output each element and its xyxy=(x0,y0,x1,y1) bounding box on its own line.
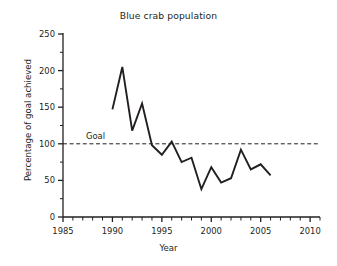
y-tick-label: 250 xyxy=(39,29,55,39)
y-tick-label: 150 xyxy=(39,102,55,112)
x-tick-label: 1985 xyxy=(52,226,73,236)
plot-area: 050100150200250 198519901995200020052010… xyxy=(0,0,337,266)
y-tick-label-group: 050100150200250 xyxy=(39,29,55,222)
x-tick-label: 1990 xyxy=(102,226,123,236)
y-tick-label: 0 xyxy=(50,212,55,222)
x-tick-label-group: 198519901995200020052010 xyxy=(52,226,320,236)
data-series-line xyxy=(112,67,270,189)
x-tick-label: 1995 xyxy=(151,226,172,236)
y-tick-label: 200 xyxy=(39,66,55,76)
chart-figure: Blue crab population Percentage of goal … xyxy=(0,0,337,266)
goal-line-label: Goal xyxy=(86,131,105,141)
x-tick-label: 2010 xyxy=(299,226,320,236)
x-tick-label: 2005 xyxy=(250,226,271,236)
y-tick-label: 50 xyxy=(44,175,55,185)
x-tick-marks xyxy=(63,217,320,222)
y-tick-marks xyxy=(58,34,63,217)
y-tick-label: 100 xyxy=(39,139,55,149)
x-tick-label: 2000 xyxy=(201,226,222,236)
